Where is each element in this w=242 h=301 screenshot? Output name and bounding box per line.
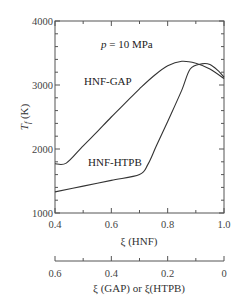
x-axis-title: ξ (HNF) xyxy=(121,235,158,248)
pressure-annotation: p = 10 MPa xyxy=(100,38,153,50)
secondary-x-axis: 0.60.40.20 xyxy=(48,256,226,279)
x-tick-label: 0.8 xyxy=(161,219,174,230)
x-tick-label: 0.4 xyxy=(48,219,62,230)
y-tick-label: 3000 xyxy=(32,80,53,91)
y-axis-title: Tf (K) xyxy=(18,103,32,130)
x2-tick-label: 0.6 xyxy=(48,268,61,279)
curve-hnf-gap xyxy=(55,61,224,164)
x-tick-label: 1.0 xyxy=(217,219,230,230)
curve-hnf-htpb xyxy=(55,63,224,191)
x2-tick-label: 0.4 xyxy=(105,268,119,279)
y-tick-label: 4000 xyxy=(32,16,53,27)
x-tick-label: 0.6 xyxy=(105,219,118,230)
data-curves xyxy=(55,61,224,192)
chart: 1000200030004000 0.40.60.81.0 0.60.40.20… xyxy=(0,0,242,301)
x2-tick-label: 0 xyxy=(221,268,226,279)
x-axis-secondary-title: ξ (GAP) or ξ(HTPB) xyxy=(93,282,185,295)
x2-tick-label: 0.2 xyxy=(161,268,174,279)
x-axis-ticks: 0.40.60.81.0 xyxy=(48,21,230,230)
series-label-hnf-htpb: HNF-HTPB xyxy=(88,156,142,168)
y-tick-label: 2000 xyxy=(32,144,53,155)
y-tick-label: 1000 xyxy=(32,208,53,219)
series-label-hnf-gap: HNF-GAP xyxy=(84,75,132,87)
